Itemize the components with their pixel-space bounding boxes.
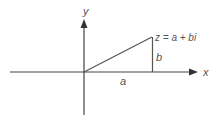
vector-z bbox=[84, 37, 152, 72]
point-z-label: z = a + bi bbox=[154, 32, 197, 43]
x-axis-arrow-icon bbox=[189, 69, 198, 76]
x-axis-label: x bbox=[202, 66, 209, 78]
b-label: b bbox=[156, 51, 162, 63]
complex-plane-diagram: y x z = a + bi b a bbox=[0, 0, 214, 121]
y-axis-label: y bbox=[82, 5, 90, 17]
a-label: a bbox=[120, 75, 126, 87]
y-axis-arrow-icon bbox=[81, 19, 88, 28]
